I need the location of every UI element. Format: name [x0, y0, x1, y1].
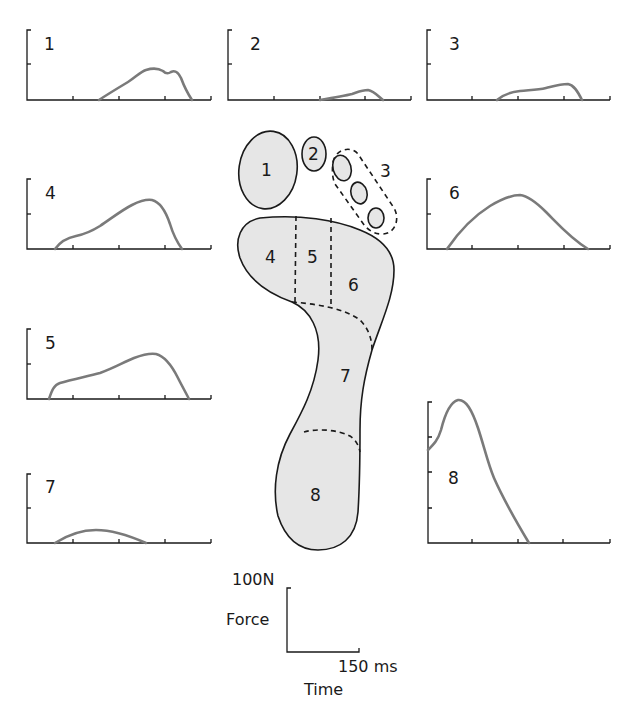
chart-1-curve: [99, 69, 192, 100]
force-chart-1: 1: [27, 30, 211, 100]
chart-8-curve: [428, 400, 529, 543]
scale-force-value: 100N: [232, 570, 275, 589]
chart-5-curve: [49, 354, 189, 399]
scale-bar: 100N Force 150 ms Time: [226, 570, 398, 699]
chart-5-label: 5: [45, 333, 56, 353]
svg-text:2: 2: [308, 144, 319, 164]
foot-region-8-label: 8: [310, 485, 321, 505]
foot-region-1: 1: [234, 127, 302, 212]
foot-region-5-label: 5: [307, 247, 318, 267]
chart-2-curve: [320, 90, 383, 100]
force-chart-6: 6: [427, 179, 610, 249]
force-chart-2: 2: [228, 30, 411, 100]
force-chart-7: 7: [27, 474, 211, 543]
chart-6-curve: [447, 195, 588, 249]
scale-time-label: Time: [303, 680, 343, 699]
chart-4-curve: [55, 200, 182, 249]
chart-7-label: 7: [45, 477, 56, 497]
chart-3-label: 3: [449, 34, 460, 54]
force-chart-5: 5: [27, 329, 211, 399]
scale-time-value: 150 ms: [338, 657, 398, 676]
chart-7-curve: [55, 530, 146, 543]
svg-text:1: 1: [261, 160, 272, 180]
scale-bar-axes: [287, 588, 359, 652]
chart-2-label: 2: [250, 34, 261, 54]
chart-4-label: 4: [45, 183, 56, 203]
chart-1-label: 1: [44, 34, 55, 54]
foot-region-4-label: 4: [265, 247, 276, 267]
foot-region-2: 2: [302, 137, 326, 171]
foot-region-6-label: 6: [348, 275, 359, 295]
foot-force-diagram: 1 2 3 4: [0, 0, 640, 728]
foot-region-7-label: 7: [340, 366, 351, 386]
chart-8-label: 8: [448, 468, 459, 488]
force-chart-3: 3: [427, 30, 610, 100]
force-chart-4: 4: [27, 179, 211, 249]
chart-3-curve: [497, 84, 582, 100]
foot-outline: 1 2 3 4 5 6 7 8: [234, 127, 397, 550]
foot-region-3: 3: [330, 149, 397, 234]
force-chart-8: 8: [428, 400, 610, 543]
scale-force-label: Force: [226, 610, 269, 629]
svg-text:3: 3: [380, 161, 391, 181]
chart-6-label: 6: [449, 183, 460, 203]
